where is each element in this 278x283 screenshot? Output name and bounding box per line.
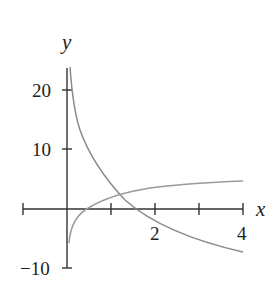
y-axis-label: y: [60, 30, 72, 54]
chart-canvas: y x 20 10 −10 2 4: [0, 0, 278, 283]
y-tick-label-neg10: −10: [20, 258, 50, 279]
x-tick-label-2: 2: [150, 223, 160, 244]
x-tick-label-4: 4: [237, 223, 247, 244]
axes: [23, 68, 243, 268]
y-tick-label-20: 20: [32, 80, 51, 101]
x-axis-label: x: [255, 197, 266, 221]
y-tick-label-10: 10: [32, 139, 51, 160]
